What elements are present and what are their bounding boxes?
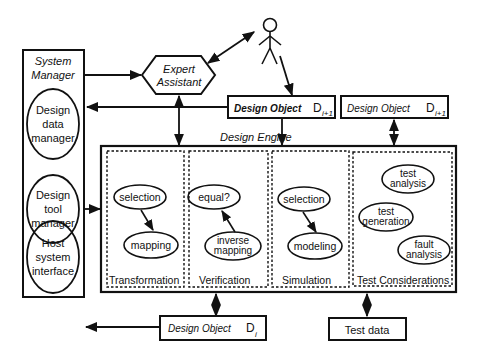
test-considerations-label: Test Considerations	[357, 274, 449, 286]
system-manager-title: System	[35, 55, 72, 67]
verification-panel	[189, 151, 268, 287]
svg-text:selection: selection	[283, 193, 325, 205]
svg-text:equal?: equal?	[198, 191, 230, 203]
design-object-next-test-box: Design Object D i+1	[341, 96, 448, 118]
svg-text:mapping: mapping	[214, 245, 252, 256]
svg-text:analysis: analysis	[406, 249, 442, 260]
svg-text:D: D	[313, 101, 322, 115]
svg-text:i: i	[255, 330, 257, 339]
svg-text:interface: interface	[32, 265, 74, 277]
svg-text:Manager: Manager	[31, 69, 76, 81]
svg-text:tool: tool	[44, 203, 62, 215]
svg-text:i+1: i+1	[435, 109, 446, 118]
svg-text:Host: Host	[42, 237, 65, 249]
design-engine-title: Design Engine	[220, 131, 292, 143]
expert-assistant: Expert Assistant	[142, 56, 215, 94]
stick-figure-user-icon	[259, 19, 281, 65]
user-expert-arrow	[208, 32, 254, 63]
design-data-manager: Design data manager	[27, 89, 79, 159]
simulation-panel	[272, 151, 349, 287]
svg-text:Design: Design	[36, 189, 70, 201]
design-object-next-box: Design Object D i+1	[228, 96, 335, 118]
transformation-label: Transformation	[109, 274, 179, 286]
svg-text:generation: generation	[362, 216, 409, 227]
design-system-diagram: System Manager Design data manager Desig…	[0, 0, 485, 364]
user-design-object-arrow	[280, 56, 292, 95]
svg-text:manager: manager	[31, 132, 75, 144]
verification-label: Verification	[199, 274, 251, 286]
svg-text:Design Object: Design Object	[347, 103, 411, 114]
selection-to-modeling-arrow	[303, 212, 316, 232]
svg-text:system: system	[36, 251, 71, 263]
selection-to-mapping-arrow	[141, 210, 153, 230]
inverse-to-equal-arrow	[222, 211, 235, 232]
simulation-label: Simulation	[282, 274, 331, 286]
svg-text:selection: selection	[119, 191, 161, 203]
svg-text:modeling: modeling	[294, 240, 337, 252]
svg-text:D: D	[246, 321, 255, 335]
test-data-box: Test data	[329, 318, 406, 340]
host-system-interface: Host system interface	[27, 221, 79, 293]
svg-text:i+1: i+1	[322, 109, 333, 118]
svg-text:mapping: mapping	[131, 239, 171, 251]
svg-text:Design Object: Design Object	[168, 323, 232, 334]
svg-text:Expert: Expert	[163, 63, 196, 75]
svg-text:D: D	[426, 101, 435, 115]
svg-text:Assistant: Assistant	[156, 76, 203, 88]
svg-text:data: data	[42, 118, 64, 130]
svg-text:Test data: Test data	[345, 324, 391, 336]
svg-text:analysis: analysis	[390, 178, 426, 189]
design-object-current-box: Design Object D i	[160, 316, 266, 340]
svg-text:Design Object: Design Object	[234, 103, 302, 114]
svg-text:Design: Design	[36, 104, 70, 116]
